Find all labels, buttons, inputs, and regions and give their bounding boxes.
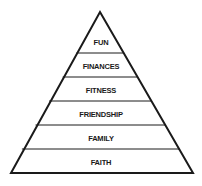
level-friendship-label: FRIENDSHIP [79, 110, 123, 119]
pyramid-diagram: FUN FINANCES FITNESS FRIENDSHIP FAMILY F… [0, 0, 202, 186]
level-fitness-label: FITNESS [86, 86, 116, 95]
level-fun-label: FUN [94, 38, 109, 47]
level-finances-label: FINANCES [83, 62, 120, 71]
level-faith-label: FAITH [91, 158, 112, 167]
level-family-label: FAMILY [88, 134, 114, 143]
